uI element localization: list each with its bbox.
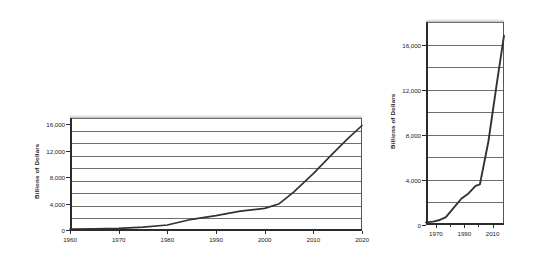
left-xtick-label-2000: 2000 xyxy=(258,236,272,243)
right-chart-series-line xyxy=(426,22,504,225)
right-xtick-mark-2010 xyxy=(493,225,494,228)
right-ytick-label-0: 0 xyxy=(393,222,421,229)
right-xtick-mark-1980-minor xyxy=(450,225,451,227)
right-ytick-label-4000: 4,000 xyxy=(393,176,421,183)
right-xtick-label-2010: 2010 xyxy=(486,230,500,237)
left-xtick-mark-1970 xyxy=(119,231,120,235)
left-ytick-label-0: 0 xyxy=(37,227,65,234)
right-ytick-label-12000: 12,000 xyxy=(393,86,421,93)
left-xtick-label-2020: 2020 xyxy=(355,236,369,243)
left-ytick-label-12000: 12,000 xyxy=(37,147,65,154)
left-chart-series-line xyxy=(70,118,362,231)
left-xtick-mark-2010 xyxy=(313,231,314,235)
left-chart-plot-area xyxy=(70,118,362,231)
right-ytick-label-8000: 8,000 xyxy=(393,131,421,138)
left-xtick-mark-2000 xyxy=(265,231,266,235)
left-xtick-mark-1990 xyxy=(216,231,217,235)
right-xtick-label-1970: 1970 xyxy=(429,230,443,237)
left-xtick-mark-1960 xyxy=(70,231,71,235)
left-xtick-label-2010: 2010 xyxy=(307,236,321,243)
left-xtick-label-1970: 1970 xyxy=(112,236,126,243)
chart-left: Billions of Dollars 0 4,000 8,000 12,000… xyxy=(0,0,400,263)
left-xtick-mark-1980 xyxy=(167,231,168,235)
left-xtick-mark-2020 xyxy=(362,231,363,235)
right-chart-plot-area xyxy=(426,22,504,225)
left-xtick-label-1990: 1990 xyxy=(209,236,223,243)
chart-right: Billions of Dollars 0 4,000 8,000 12,000… xyxy=(380,0,534,263)
right-xtick-label-1990: 1990 xyxy=(458,230,472,237)
right-ytick-mark-0 xyxy=(422,225,426,226)
left-xtick-label-1980: 1980 xyxy=(161,236,175,243)
right-ytick-label-16000: 16,000 xyxy=(393,41,421,48)
left-ytick-label-4000: 4,000 xyxy=(37,200,65,207)
right-xtick-mark-2000-minor xyxy=(478,225,479,227)
left-ytick-label-16000: 16,000 xyxy=(37,121,65,128)
left-xtick-label-1960: 1960 xyxy=(63,236,77,243)
right-xtick-mark-1990 xyxy=(464,225,465,228)
right-xtick-mark-1970 xyxy=(436,225,437,228)
left-ytick-label-8000: 8,000 xyxy=(37,174,65,181)
